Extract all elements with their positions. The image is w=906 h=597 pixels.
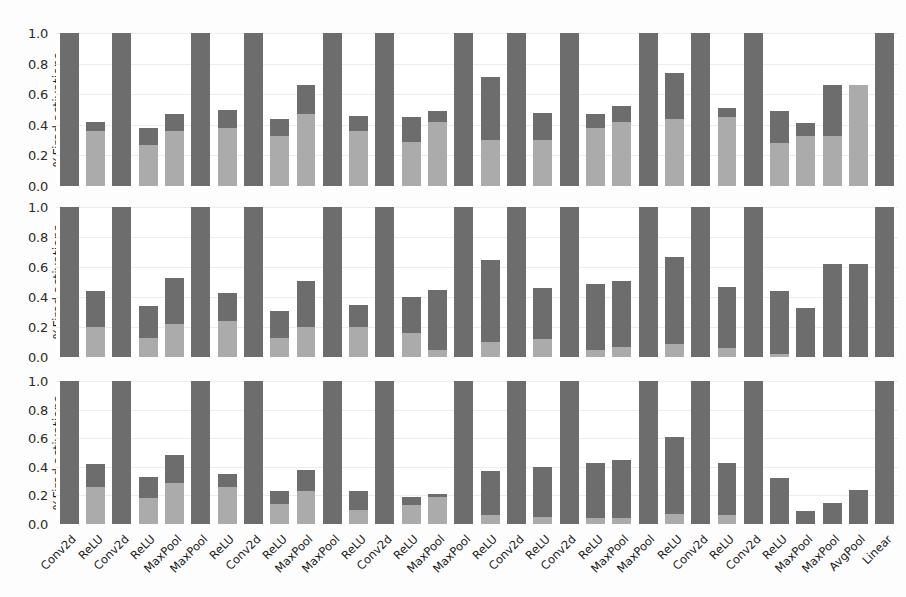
stacked-bar[interactable]	[191, 207, 210, 357]
stacked-bar[interactable]	[244, 381, 263, 524]
stacked-bar[interactable]	[165, 114, 184, 186]
stacked-bar[interactable]	[86, 122, 105, 186]
stacked-bar[interactable]	[560, 207, 579, 357]
stacked-bar[interactable]	[770, 478, 789, 524]
stacked-bar[interactable]	[560, 381, 579, 524]
stacked-bar[interactable]	[270, 491, 289, 524]
stacked-bar[interactable]	[665, 257, 684, 358]
stacked-bar[interactable]	[533, 113, 552, 186]
stacked-bar[interactable]	[744, 381, 763, 524]
stacked-bar[interactable]	[112, 381, 131, 524]
stacked-bar[interactable]	[849, 85, 868, 186]
stacked-bar[interactable]	[112, 207, 131, 357]
stacked-bar[interactable]	[612, 106, 631, 186]
stacked-bar[interactable]	[375, 381, 394, 524]
stacked-bar[interactable]	[612, 460, 631, 524]
stacked-bar[interactable]	[796, 123, 815, 186]
stacked-bar[interactable]	[849, 490, 868, 524]
stacked-bar[interactable]	[823, 85, 842, 186]
stacked-bar[interactable]	[796, 511, 815, 524]
stacked-bar[interactable]	[586, 114, 605, 186]
stacked-bar[interactable]	[86, 291, 105, 357]
stacked-bar[interactable]	[875, 381, 894, 524]
stacked-bar[interactable]	[665, 73, 684, 186]
stacked-bar[interactable]	[533, 467, 552, 524]
stacked-bar[interactable]	[165, 455, 184, 524]
stacked-bar[interactable]	[402, 497, 421, 524]
stacked-bar[interactable]	[218, 474, 237, 524]
stacked-bar[interactable]	[218, 293, 237, 358]
stacked-bar[interactable]	[244, 33, 263, 186]
stacked-bar[interactable]	[875, 33, 894, 186]
stacked-bar[interactable]	[428, 111, 447, 186]
stacked-bar[interactable]	[60, 33, 79, 186]
stacked-bar[interactable]	[323, 207, 342, 357]
stacked-bar[interactable]	[770, 291, 789, 357]
stacked-bar[interactable]	[639, 33, 658, 186]
stacked-bar[interactable]	[665, 437, 684, 524]
stacked-bar[interactable]	[796, 308, 815, 358]
stacked-bar[interactable]	[718, 287, 737, 358]
stacked-bar[interactable]	[718, 108, 737, 186]
stacked-bar[interactable]	[297, 470, 316, 524]
stacked-bar[interactable]	[323, 33, 342, 186]
stacked-bar[interactable]	[586, 463, 605, 524]
stacked-bar[interactable]	[612, 281, 631, 358]
stacked-bar[interactable]	[770, 111, 789, 186]
stacked-bar[interactable]	[86, 464, 105, 524]
bar-slot	[240, 207, 266, 357]
stacked-bar[interactable]	[270, 119, 289, 186]
bar-slot	[688, 33, 714, 186]
stacked-bar[interactable]	[691, 207, 710, 357]
stacked-bar[interactable]	[481, 260, 500, 358]
stacked-bar[interactable]	[481, 77, 500, 186]
stacked-bar[interactable]	[639, 381, 658, 524]
stacked-bar[interactable]	[507, 33, 526, 186]
stacked-bar[interactable]	[560, 33, 579, 186]
stacked-bar[interactable]	[349, 116, 368, 186]
stacked-bar[interactable]	[349, 305, 368, 358]
stacked-bar[interactable]	[375, 207, 394, 357]
stacked-bar[interactable]	[691, 381, 710, 524]
stacked-bar[interactable]	[165, 278, 184, 358]
stacked-bar[interactable]	[218, 110, 237, 186]
stacked-bar[interactable]	[744, 33, 763, 186]
stacked-bar[interactable]	[402, 117, 421, 186]
stacked-bar[interactable]	[270, 311, 289, 358]
bar-segment-upper	[165, 278, 184, 325]
y-tick-label: 0.4	[28, 290, 48, 305]
stacked-bar[interactable]	[349, 491, 368, 524]
stacked-bar[interactable]	[875, 207, 894, 357]
stacked-bar[interactable]	[191, 33, 210, 186]
stacked-bar[interactable]	[454, 33, 473, 186]
stacked-bar[interactable]	[112, 33, 131, 186]
stacked-bar[interactable]	[454, 207, 473, 357]
stacked-bar[interactable]	[691, 33, 710, 186]
stacked-bar[interactable]	[718, 463, 737, 524]
stacked-bar[interactable]	[428, 494, 447, 524]
stacked-bar[interactable]	[823, 503, 842, 524]
stacked-bar[interactable]	[244, 207, 263, 357]
stacked-bar[interactable]	[481, 471, 500, 524]
stacked-bar[interactable]	[297, 281, 316, 358]
stacked-bar[interactable]	[139, 306, 158, 357]
stacked-bar[interactable]	[849, 264, 868, 357]
stacked-bar[interactable]	[375, 33, 394, 186]
stacked-bar[interactable]	[586, 284, 605, 358]
stacked-bar[interactable]	[639, 207, 658, 357]
stacked-bar[interactable]	[139, 477, 158, 524]
stacked-bar[interactable]	[454, 381, 473, 524]
stacked-bar[interactable]	[533, 288, 552, 357]
stacked-bar[interactable]	[744, 207, 763, 357]
stacked-bar[interactable]	[402, 297, 421, 357]
stacked-bar[interactable]	[60, 381, 79, 524]
stacked-bar[interactable]	[507, 381, 526, 524]
stacked-bar[interactable]	[823, 264, 842, 357]
stacked-bar[interactable]	[60, 207, 79, 357]
stacked-bar[interactable]	[323, 381, 342, 524]
stacked-bar[interactable]	[297, 85, 316, 186]
stacked-bar[interactable]	[428, 290, 447, 358]
stacked-bar[interactable]	[191, 381, 210, 524]
stacked-bar[interactable]	[139, 128, 158, 186]
stacked-bar[interactable]	[507, 207, 526, 357]
